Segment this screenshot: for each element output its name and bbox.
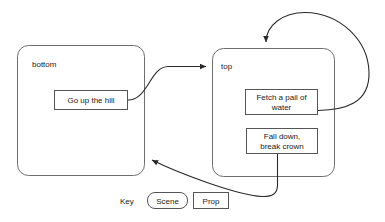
legend: Key Scene Prop <box>120 193 229 209</box>
prop-fetch-a-pail-of-water[interactable]: Fetch a pail of water <box>246 90 318 115</box>
prop-fall-down-break-crown-label-line-1: Fall down, <box>264 132 300 141</box>
legend-title: Key <box>120 197 134 206</box>
scene-bottom-label: bottom <box>32 60 57 69</box>
scene-top-label: top <box>221 62 233 71</box>
diagram-svg: bottom top Go up the hill Fetch a pail o… <box>0 0 385 222</box>
legend-scene-label: Scene <box>156 197 179 206</box>
legend-prop-swatch[interactable]: Prop <box>194 193 229 209</box>
prop-go-up-the-hill[interactable]: Go up the hill <box>55 91 128 110</box>
prop-fetch-a-pail-of-water-label-line-1: Fetch a pail of <box>256 93 307 102</box>
prop-fall-down-break-crown-label-line-2: break crown <box>260 142 304 151</box>
prop-fall-down-break-crown[interactable]: Fall down, break crown <box>247 129 318 154</box>
diagram-canvas: bottom top Go up the hill Fetch a pail o… <box>0 0 385 222</box>
scene-bottom[interactable]: bottom <box>18 46 145 176</box>
prop-fetch-a-pail-of-water-label-line-2: water <box>271 103 292 112</box>
legend-prop-label: Prop <box>203 197 220 206</box>
prop-go-up-the-hill-label-line-1: Go up the hill <box>67 96 114 105</box>
legend-scene-swatch[interactable]: Scene <box>148 193 188 209</box>
